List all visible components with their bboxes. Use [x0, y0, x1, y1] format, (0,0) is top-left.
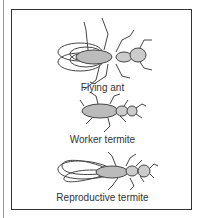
flying-ant-icon — [58, 18, 152, 90]
reproductive-termite-icon — [58, 152, 158, 190]
diagram-frame: Flying ant Worker termite Reproductive t… — [11, 9, 192, 210]
label-reproductive-termite: Reproductive termite — [12, 192, 193, 203]
label-worker-termite: Worker termite — [12, 134, 193, 145]
worker-termite-icon — [80, 92, 146, 132]
outer-border-line — [3, 0, 4, 218]
label-flying-ant: Flying ant — [12, 82, 193, 93]
insect-illustrations — [12, 10, 193, 211]
